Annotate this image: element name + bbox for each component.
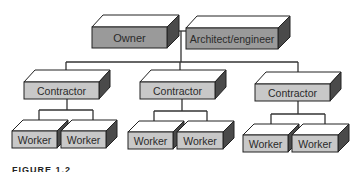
contractor-label-2: Contractor: [153, 85, 203, 97]
worker-box-1: Worker: [12, 120, 68, 148]
architect-engineer-box: Architect/engineer: [186, 16, 290, 49]
worker-label-6: Worker: [298, 138, 332, 150]
contractor-label-1: Contractor: [37, 85, 87, 97]
contractor-label-3: Contractor: [268, 87, 318, 99]
contractor-box-2: Contractor: [140, 70, 226, 99]
worker-box-4: Worker: [177, 121, 234, 149]
contractor-box-1: Contractor: [24, 70, 110, 99]
worker-label-2: Worker: [67, 134, 101, 146]
worker-label-4: Worker: [183, 135, 217, 147]
worker-box-2: Worker: [61, 120, 117, 148]
figure-caption: FIGURE 1.2: [12, 165, 71, 172]
worker-label-5: Worker: [249, 138, 283, 150]
owner-box: Owner: [92, 15, 179, 48]
architect-engineer-label: Architect/engineer: [190, 33, 275, 45]
owner-label: Owner: [113, 32, 146, 44]
worker-box-5: Worker: [243, 124, 299, 152]
org-chart-diagram: Owner Architect/engineer Contractor Cont…: [0, 0, 361, 172]
worker-box-6: Worker: [292, 124, 349, 152]
worker-label-1: Worker: [18, 134, 52, 146]
contractor-box-3: Contractor: [255, 72, 341, 101]
worker-label-3: Worker: [134, 135, 168, 147]
worker-box-3: Worker: [128, 121, 184, 149]
